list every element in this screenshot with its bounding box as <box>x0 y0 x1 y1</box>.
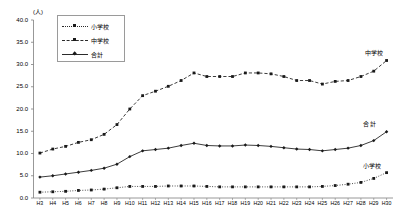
line-chart: (人) 40.035.030.025.020.015.010.05.00.0 H… <box>0 0 400 209</box>
x-axis-tick-H13: H13 <box>164 200 174 206</box>
legend-swatch-icon <box>62 36 88 44</box>
y-axis-tick-8: 0.0 <box>6 195 28 201</box>
y-axis-tick-4: 20.0 <box>6 106 28 112</box>
series-annotation-1: 合 計 <box>363 119 377 128</box>
x-axis-tick-H20: H20 <box>253 200 263 206</box>
x-axis-tick-H28: H28 <box>356 200 366 206</box>
y-axis-tick-3: 25.0 <box>6 83 28 89</box>
x-axis-tick-H9: H9 <box>114 200 121 206</box>
legend-swatch-icon <box>62 50 88 58</box>
series-0 <box>39 171 388 193</box>
y-axis-tick-0: 40.0 <box>6 17 28 23</box>
x-axis-tick-H23: H23 <box>292 200 302 206</box>
x-axis-tick-H15: H15 <box>189 200 199 206</box>
x-axis-tick-H6: H6 <box>75 200 82 206</box>
x-axis-tick-H30: H30 <box>382 200 392 206</box>
x-axis-tick-H16: H16 <box>202 200 212 206</box>
x-axis-tick-H27: H27 <box>343 200 353 206</box>
y-axis-unit-label: (人) <box>33 7 43 16</box>
y-axis-tick-6: 10.0 <box>6 150 28 156</box>
x-axis-tick-H5: H5 <box>62 200 69 206</box>
x-axis-tick-H3: H3 <box>37 200 44 206</box>
chart-legend: 小学校 中学校 合計 <box>57 15 125 62</box>
legend-swatch-icon <box>62 22 88 30</box>
legend-item-0: 小学校 <box>62 20 124 32</box>
legend-item-2: 合計 <box>62 48 124 60</box>
x-axis-tick-H12: H12 <box>151 200 161 206</box>
x-axis-tick-H22: H22 <box>279 200 289 206</box>
x-axis-tick-H10: H10 <box>125 200 135 206</box>
series-1 <box>39 59 388 154</box>
legend-label-1: 中学校 <box>91 36 109 45</box>
y-axis-tick-2: 30.0 <box>6 61 28 67</box>
x-axis-tick-H24: H24 <box>305 200 315 206</box>
x-axis-tick-H14: H14 <box>176 200 186 206</box>
y-axis-tick-1: 35.0 <box>6 39 28 45</box>
x-axis-tick-H25: H25 <box>318 200 328 206</box>
y-axis-tick-7: 5.0 <box>6 172 28 178</box>
x-axis-tick-H11: H11 <box>138 200 147 206</box>
x-axis-tick-H29: H29 <box>369 200 379 206</box>
series-annotation-0: 中学校 <box>365 48 383 57</box>
series-2 <box>38 130 388 179</box>
legend-item-1: 中学校 <box>62 34 124 46</box>
x-axis-tick-H4: H4 <box>49 200 56 206</box>
x-axis-tick-H7: H7 <box>88 200 95 206</box>
y-axis-tick-5: 15.0 <box>6 128 28 134</box>
legend-label-0: 小学校 <box>91 22 109 31</box>
x-axis-tick-H19: H19 <box>241 200 251 206</box>
x-axis-tick-H17: H17 <box>215 200 225 206</box>
legend-label-2: 合計 <box>91 50 103 59</box>
x-axis-tick-H18: H18 <box>228 200 238 206</box>
series-annotation-2: 小学校 <box>363 161 381 170</box>
x-axis-tick-H26: H26 <box>330 200 340 206</box>
chart-series-layer <box>38 59 388 194</box>
x-axis-tick-H8: H8 <box>101 200 108 206</box>
x-axis-tick-H21: H21 <box>266 200 276 206</box>
